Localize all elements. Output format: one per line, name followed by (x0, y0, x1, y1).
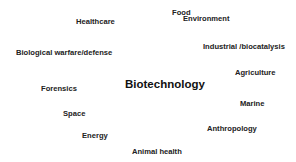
term-forensics: Forensics (41, 85, 77, 93)
term-anthropology: Anthropology (207, 125, 257, 133)
term-energy: Energy (82, 132, 108, 140)
term-healthcare: Healthcare (76, 18, 115, 26)
center-term-biotechnology: Biotechnology (125, 79, 205, 91)
term-animal-health: Animal health (132, 148, 182, 156)
term-agriculture: Agriculture (235, 69, 276, 77)
term-environment: Environment (183, 15, 229, 23)
term-space: Space (63, 110, 85, 118)
term-biological-warfare-defense: Biological warfare/defense (16, 49, 112, 57)
term-industrial-biocatalysis: Industrial /biocatalysis (203, 43, 285, 51)
term-marine: Marine (240, 100, 264, 108)
